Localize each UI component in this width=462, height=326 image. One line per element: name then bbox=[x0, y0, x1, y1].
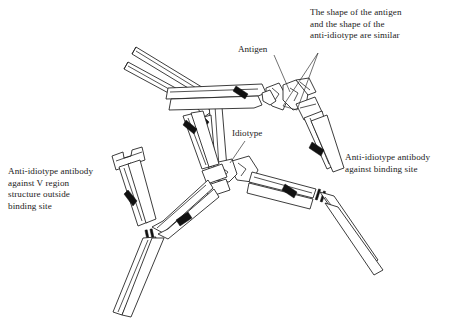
caption-anti-idiotype-binding-site: Anti-idiotype antibody against binding s… bbox=[345, 152, 460, 175]
caption-antigen-anti-idiotype-similarity: The shape of the antigen and the shape o… bbox=[310, 7, 460, 42]
label-idiotype: Idiotype bbox=[232, 128, 262, 139]
label-antigen: Antigen bbox=[238, 44, 267, 55]
caption-anti-idiotype-v-region: Anti-idiotype antibody against V region … bbox=[8, 166, 128, 212]
antibody-arm-to-antigen bbox=[166, 84, 266, 110]
figure-canvas: .tube { fill:#ffffff; stroke:#1a1a1a; st… bbox=[0, 0, 462, 326]
antibody-arm-lower-right bbox=[247, 172, 383, 275]
